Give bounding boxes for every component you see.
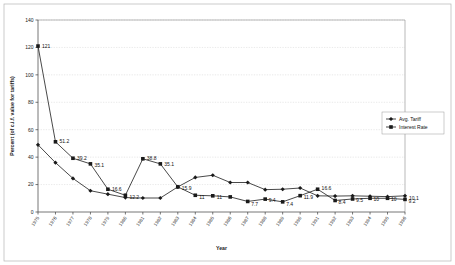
data-label: 35.1: [164, 161, 174, 167]
data-point-marker: [176, 185, 180, 189]
data-label: 35.1: [94, 162, 104, 168]
y-tick-label: 60: [28, 127, 34, 133]
y-axis-title: Percent (of c.i.f. value for tariffs): [9, 76, 15, 156]
data-label: 7.4: [286, 201, 293, 207]
data-point-marker: [106, 187, 110, 191]
chart-legend: Avg. TariffInterest Rate: [382, 112, 444, 134]
y-tick-label: 140: [25, 17, 34, 23]
data-point-marker: [386, 196, 390, 200]
trailing-data-label: 10.1: [409, 195, 419, 201]
data-label: 9.4: [269, 197, 276, 203]
y-tick-label: 80: [28, 99, 34, 105]
data-label: 51.2: [59, 138, 69, 144]
data-point-marker: [124, 193, 128, 197]
y-tick-label: 120: [25, 44, 34, 50]
legend-marker: [389, 125, 393, 129]
data-label: 12.2: [129, 194, 139, 200]
data-point-marker: [263, 197, 267, 201]
chart-figure: 020406080100120140 197519761977197819791…: [0, 0, 455, 265]
data-point-marker: [193, 193, 197, 197]
data-label: 10: [374, 196, 380, 202]
data-label: 121: [42, 43, 51, 49]
y-tick-label: 40: [28, 154, 34, 160]
x-axis-title: Year: [216, 245, 227, 251]
legend-label: Interest Rate: [399, 124, 428, 130]
y-tick-label: 0: [31, 209, 34, 215]
data-point-marker: [316, 187, 320, 191]
data-label: 15.9: [182, 185, 192, 191]
data-label: 16.6: [322, 185, 332, 191]
data-point-marker: [141, 157, 145, 161]
y-tick-label: 100: [25, 72, 34, 78]
data-point-marker: [281, 200, 285, 204]
data-label: 9.5: [356, 197, 363, 203]
data-point-marker: [333, 199, 337, 203]
data-point-marker: [71, 156, 75, 160]
data-point-marker: [159, 162, 163, 166]
data-label: 39.2: [77, 155, 87, 161]
data-point-marker: [36, 44, 40, 48]
legend-label: Avg. Tariff: [399, 116, 422, 122]
data-label: 11: [199, 194, 204, 200]
data-point-marker: [351, 197, 355, 201]
data-point-marker: [298, 194, 302, 198]
data-label: 8.4: [339, 199, 346, 205]
data-label: 10: [391, 196, 397, 202]
data-label: 7.7: [251, 201, 258, 207]
data-label: 38.8: [147, 155, 157, 161]
data-label: 11.9: [304, 194, 314, 200]
data-label: 11: [217, 194, 222, 200]
data-label: 16.6: [112, 186, 122, 192]
data-point-marker: [246, 200, 250, 204]
data-point-marker: [54, 140, 58, 144]
data-point-marker: [228, 195, 232, 199]
data-point-marker: [211, 194, 215, 198]
data-point-marker: [368, 196, 372, 200]
data-point-marker: [89, 162, 93, 166]
data-point-marker: [403, 198, 407, 202]
y-tick-label: 20: [28, 181, 34, 187]
